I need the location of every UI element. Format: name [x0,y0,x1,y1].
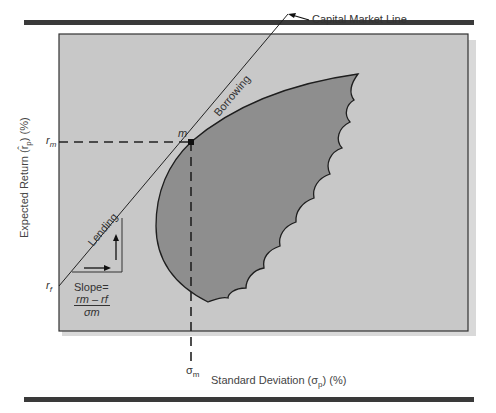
x-axis-label: Standard Deviation (σp) (%) [211,374,346,389]
bottom-rule [24,397,474,402]
slope-label: Slope= [74,281,109,293]
y-axis-label: Expected Return (r̂p) (%) [18,117,33,238]
market-point [188,139,194,145]
x-tick-sigma-m: σm [186,364,199,379]
slope-fraction: rm – rf σm [74,293,110,318]
y-tick-rm: rm [46,134,56,149]
slope-numerator: rm – rf [74,293,110,306]
cml-label: Capital Market Line [312,13,407,25]
cml-arrowhead-icon [288,13,296,18]
y-tick-rf: rf [46,279,52,294]
market-point-label: m [178,127,187,139]
slope-denominator: σm [74,306,110,318]
chart-canvas: Borrowing Lending [0,0,496,413]
